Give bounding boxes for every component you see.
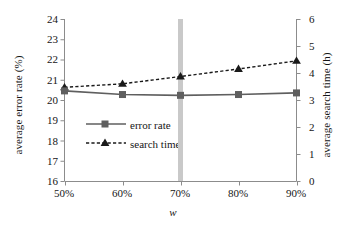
right-tick-marks: [297, 20, 301, 182]
data-point-error-rate-60%: [119, 91, 126, 98]
data-point-search-time-90%: [292, 56, 301, 63]
legend-swatch-search-time: [86, 139, 126, 146]
chart-container: average error rate (%) average search ti…: [0, 0, 346, 228]
legend-swatch-error-rate: [86, 121, 126, 128]
data-point-error-rate-50%: [61, 87, 68, 94]
data-point-error-rate-90%: [293, 89, 300, 96]
data-point-error-rate-70%: [177, 92, 184, 99]
plot-area: [0, 0, 346, 228]
highlight-band-70: [178, 19, 183, 181]
left-tick-marks: [61, 20, 65, 182]
data-point-error-rate-80%: [235, 91, 242, 98]
x-tick-marks: [66, 182, 298, 186]
